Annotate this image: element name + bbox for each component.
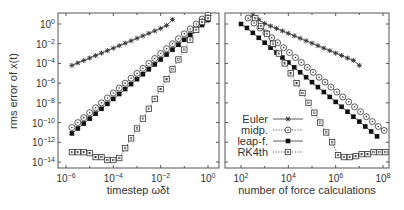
circle-marker-dot — [372, 121, 374, 123]
x-tick-label: 100 — [200, 172, 215, 184]
square-open-marker — [258, 23, 263, 28]
square-open-marker — [146, 106, 151, 111]
circle-marker-dot — [154, 58, 156, 60]
circle-marker-dot — [172, 43, 174, 45]
star-marker — [268, 23, 273, 28]
circle-marker-dot — [366, 116, 368, 118]
square-open-marker — [318, 120, 323, 125]
circle-marker-dot — [247, 17, 249, 19]
square-filled-marker — [239, 22, 244, 27]
square-open-marker — [81, 149, 86, 154]
left-plot-series — [69, 12, 211, 163]
y-tick-label: 10−4 — [36, 57, 55, 69]
square-open-marker — [128, 136, 133, 141]
square-open-marker — [253, 15, 258, 20]
right-x-tick-labels: 102104106108 — [233, 172, 390, 184]
circle-marker-dot — [83, 117, 85, 119]
star-marker — [321, 46, 326, 51]
square-open-marker — [170, 67, 175, 72]
square-filled-marker — [170, 47, 175, 52]
square-open-marker — [158, 86, 163, 91]
x-tick-label: 106 — [328, 172, 343, 184]
star-marker — [105, 48, 110, 53]
star-marker — [351, 58, 356, 63]
square-open-marker — [306, 100, 311, 105]
square-filled-marker — [262, 40, 267, 45]
square-filled-marker — [158, 57, 163, 62]
square-filled-marker — [310, 80, 315, 85]
square-open-marker — [324, 130, 329, 135]
star-marker — [333, 51, 338, 56]
star-marker — [315, 43, 320, 48]
square-filled-marker — [182, 37, 187, 42]
square-open-marker — [134, 126, 139, 131]
circle-marker-dot — [142, 68, 144, 70]
circle-marker-dot — [89, 112, 91, 114]
square-open-marker — [335, 152, 340, 157]
circle-marker-dot — [301, 62, 303, 64]
circle-marker-dot — [130, 77, 132, 79]
square-filled-marker — [129, 82, 134, 87]
square-filled-marker — [245, 26, 250, 31]
square-open-marker — [270, 41, 275, 46]
square-filled-marker — [164, 52, 169, 57]
square-open-marker — [105, 157, 110, 162]
circle-marker-dot — [354, 106, 356, 108]
star-marker — [170, 17, 175, 22]
square-open-marker — [193, 27, 198, 32]
star-marker — [111, 46, 116, 51]
y-tick-label: 100 — [40, 18, 55, 30]
star-marker — [286, 31, 291, 36]
circle-marker-dot — [348, 101, 350, 103]
star-marker — [327, 48, 332, 53]
square-open-marker — [329, 140, 334, 145]
circle-marker-dot — [377, 126, 379, 128]
square-filled-marker — [292, 65, 297, 70]
square-filled-marker — [369, 129, 374, 134]
star-marker — [286, 117, 291, 122]
square-open-marker — [341, 154, 346, 159]
left-x-tick-labels: 10−610−410−2100 — [56, 172, 215, 184]
square-open-marker — [371, 149, 376, 154]
square-filled-marker — [363, 124, 368, 129]
y-tick-labels: 10010−210−410−610−810−1010−1210−14 — [32, 18, 55, 168]
star-marker — [310, 41, 315, 46]
star-marker — [339, 53, 344, 58]
star-marker — [298, 36, 303, 41]
star-marker — [158, 26, 163, 31]
square-open-marker — [93, 154, 98, 159]
square-filled-marker — [345, 109, 350, 114]
y-tick-label: 10−14 — [32, 156, 55, 168]
circle-marker-dot — [295, 57, 297, 59]
square-filled-marker — [99, 106, 104, 111]
star-marker — [146, 31, 151, 36]
square-filled-marker — [298, 70, 303, 75]
circle-marker-dot — [113, 92, 115, 94]
circle-marker-dot — [342, 96, 344, 98]
x-tick-label: 108 — [375, 172, 390, 184]
circle-marker-dot — [336, 91, 338, 93]
circle-marker-dot — [289, 52, 291, 54]
left-x-axis-label: timestep ωδt — [107, 184, 169, 196]
square-open-marker — [282, 61, 287, 66]
square-filled-marker — [105, 102, 110, 107]
y-tick-label: 10−12 — [32, 136, 55, 148]
square-filled-marker — [333, 100, 338, 105]
circle-marker-dot — [360, 111, 362, 113]
star-marker — [135, 36, 140, 41]
circle-marker-dot — [77, 122, 79, 124]
square-open-marker — [117, 155, 122, 160]
y-axis-label: rms error of x(t) — [7, 53, 19, 129]
circle-marker-dot — [178, 38, 180, 40]
square-open-marker — [294, 80, 299, 85]
star-marker — [292, 33, 297, 38]
star-marker — [123, 41, 128, 46]
star-marker — [117, 43, 122, 48]
circle-marker-dot — [71, 127, 73, 129]
square-filled-marker — [141, 72, 146, 77]
circle-marker-dot — [287, 129, 289, 131]
circle-marker-dot — [318, 76, 320, 78]
circle-marker-dot — [95, 107, 97, 109]
square-open-marker — [276, 51, 281, 56]
square-filled-marker — [256, 36, 261, 41]
